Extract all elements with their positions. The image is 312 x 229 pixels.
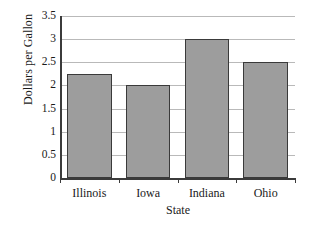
y-axis-tick-label: 3.5 [26,10,56,22]
y-axis-tick-labels: 3.532.521.510.50 [26,16,56,178]
y-axis-tick-label: 1.5 [26,103,56,115]
bars-group [60,16,295,178]
plot-area [60,16,295,178]
y-axis-tick-label: 0 [26,172,56,184]
bar-ohio [243,62,288,178]
x-axis-label-iowa: Iowa [119,185,178,201]
x-axis-label-indiana: Indiana [178,185,237,201]
x-axis-tick [119,178,120,183]
bar-indiana [185,39,230,178]
bar-iowa [126,85,171,178]
y-axis-tick-label: 3 [26,33,56,45]
y-axis-tick-label: 1 [26,126,56,138]
y-axis-tick-label: 2.5 [26,57,56,69]
x-axis-tick [60,178,61,183]
x-axis-label-illinois: Illinois [60,185,119,201]
y-axis-tick-label: 2 [26,80,56,92]
x-axis-tick [236,178,237,183]
x-axis-tick [295,178,296,183]
x-axis-tick [178,178,179,183]
bar-chart: Dollars per Gallon 3.532.521.510.50 Illi… [0,0,312,229]
x-axis-category-labels: IllinoisIowaIndianaOhio [60,185,296,203]
x-axis-label-ohio: Ohio [236,185,295,201]
bar-illinois [67,74,112,178]
y-axis-line [60,16,62,179]
x-axis-title: State [60,203,296,218]
y-axis-tick-label: 0.5 [26,149,56,161]
